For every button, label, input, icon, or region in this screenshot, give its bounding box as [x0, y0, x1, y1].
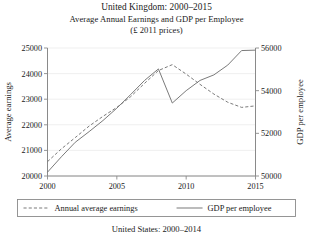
y-tick-label-right: 54000	[261, 87, 281, 96]
y-tick-label-left: 20000	[22, 172, 42, 181]
series-gdp-per-employee	[48, 50, 256, 172]
y-axis-right: 50000520005400056000GDP per employee	[256, 44, 306, 181]
figure-caption: United States: 2000–2014	[0, 224, 313, 234]
y-tick-label-left: 24000	[22, 70, 42, 79]
x-tick-label: 2015	[247, 182, 263, 191]
legend-label-2: GDP per employee	[208, 204, 272, 213]
y-tick-label-left: 21000	[22, 146, 42, 155]
y-tick-label-left: 25000	[22, 44, 42, 53]
x-axis: 2000200520102015	[39, 176, 263, 191]
chart-page: United Kingdom: 2000–2015 Average Annual…	[0, 0, 313, 242]
x-tick-label: 2010	[178, 182, 194, 191]
y-tick-label-left: 23000	[22, 95, 42, 104]
y-tick-label-left: 22000	[22, 121, 42, 130]
x-tick-label: 2005	[109, 182, 125, 191]
y-tick-label-right: 50000	[261, 172, 281, 181]
series-annual-average-earnings	[48, 65, 256, 162]
y-axis-right-title: GDP per employee	[295, 79, 305, 145]
legend-label-1: Annual average earnings	[55, 204, 138, 213]
y-tick-label-right: 56000	[261, 44, 281, 53]
legend: Annual average earningsGDP per employee	[18, 200, 296, 217]
y-axis-left-title: Average earnings	[3, 81, 13, 141]
chart-svg: 2000200520102015 20000210002200023000240…	[0, 0, 313, 242]
y-axis-left: 200002100022000230002400025000Average ea…	[3, 44, 48, 181]
y-tick-label-right: 52000	[261, 129, 281, 138]
series-layer	[48, 50, 256, 172]
x-tick-label: 2000	[39, 182, 55, 191]
